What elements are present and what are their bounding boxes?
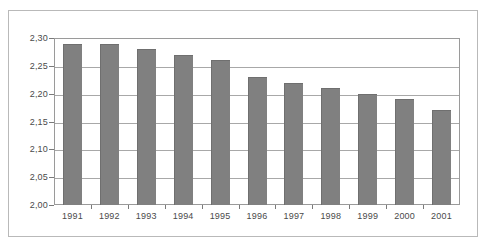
y-axis-tick-mark	[49, 94, 54, 95]
y-axis-tick-label: 2,25	[30, 61, 48, 71]
bar	[358, 94, 377, 205]
x-axis-category-label: 1992	[99, 211, 120, 221]
bar	[321, 88, 340, 205]
x-axis-category-label: 1998	[320, 211, 341, 221]
x-axis-tick-mark	[202, 205, 203, 209]
y-axis-tick-mark	[49, 38, 54, 39]
x-axis-tick-mark	[349, 205, 350, 209]
y-axis-tick-label: 2,30	[30, 33, 48, 43]
x-axis-category-label: 1994	[173, 211, 194, 221]
bars-layer	[54, 38, 460, 205]
bar	[137, 49, 156, 205]
y-axis-tick-label: 2,15	[30, 117, 48, 127]
x-axis-tick-mark	[275, 205, 276, 209]
x-axis-tick-mark	[312, 205, 313, 209]
bar	[211, 60, 230, 205]
x-axis-tick-mark	[128, 205, 129, 209]
y-axis-tick-mark	[49, 66, 54, 67]
x-axis-category-label: 1999	[357, 211, 378, 221]
y-axis-tick-mark	[49, 149, 54, 150]
x-axis-ticks	[54, 205, 460, 210]
bar	[284, 83, 303, 205]
x-axis-category-label: 1996	[247, 211, 268, 221]
y-axis-tick-label: 2,10	[30, 144, 48, 154]
x-axis-tick-mark	[165, 205, 166, 209]
y-axis-tick-label: 2,00	[30, 200, 48, 210]
x-axis-category-label: 2001	[431, 211, 452, 221]
bar	[432, 110, 451, 205]
bar	[248, 77, 267, 205]
x-axis-category-label: 1995	[210, 211, 231, 221]
y-axis-tick-label: 2,05	[30, 172, 48, 182]
x-axis-tick-mark	[91, 205, 92, 209]
x-axis-labels: 1991199219931994199519961997199819992000…	[54, 211, 460, 227]
x-axis-category-label: 1991	[62, 211, 83, 221]
bar	[395, 99, 414, 205]
bar	[100, 44, 119, 205]
x-axis-tick-mark	[239, 205, 240, 209]
x-axis-tick-mark	[423, 205, 424, 209]
y-axis-tick-mark	[49, 177, 54, 178]
y-axis-tick-label: 2,20	[30, 89, 48, 99]
x-axis-tick-mark	[386, 205, 387, 209]
bar	[63, 44, 82, 205]
bar	[174, 55, 193, 205]
x-axis-category-label: 1993	[136, 211, 157, 221]
y-axis-tick-mark	[49, 122, 54, 123]
x-axis-category-label: 1997	[283, 211, 304, 221]
y-axis-tick-mark	[49, 205, 54, 206]
x-axis-category-label: 2000	[394, 211, 415, 221]
bar-chart-figure: 2,002,052,102,152,202,252,30 19911992199…	[0, 0, 490, 248]
y-axis-labels: 2,002,052,102,152,202,252,30	[0, 38, 48, 205]
